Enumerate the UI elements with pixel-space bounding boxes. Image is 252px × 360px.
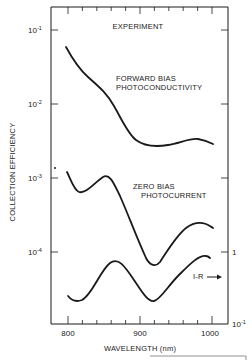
arrow-right-icon [207, 275, 222, 280]
y-tick-label-1e-1: 10-1 [28, 25, 42, 35]
forward-bias-label: FORWARD BIAS [116, 74, 176, 83]
photocurrent-label: PHOTOCURRENT [141, 191, 207, 200]
chart: 10-1 10-2 10-3 10-4 1 10-1 800 900 1000 … [0, 0, 252, 360]
ir-label: I-R [193, 272, 204, 281]
forward-bias-curve [66, 47, 213, 146]
x-tick-label-1000: 1000 [201, 329, 219, 338]
photoconductivity-label: PHOTOCONDUCTIVITY [116, 83, 202, 92]
y-tick-label-1e-3: 10-3 [28, 173, 42, 183]
chart-title: EXPERIMENT [113, 22, 164, 31]
y-tick-label-1e-2: 10-2 [28, 99, 42, 109]
x-tick-label-900: 900 [133, 329, 147, 338]
right-tick-label-1: 1 [232, 248, 237, 257]
right-tick-label-1e-1: 10-1 [232, 319, 246, 329]
x-ticks [68, 7, 212, 324]
x-tick-label-800: 800 [61, 329, 75, 338]
y-tick-label-1e-4: 10-4 [28, 247, 42, 257]
y-axis-label: COLLECTION EFFICIENCY [8, 123, 17, 222]
dot-mark [54, 167, 56, 169]
x-axis-label: WAVELENGTH (nm) [104, 344, 176, 353]
zero-bias-label: ZERO BIAS [133, 182, 175, 191]
y-ticks [51, 30, 228, 252]
ir-curve [68, 256, 210, 301]
